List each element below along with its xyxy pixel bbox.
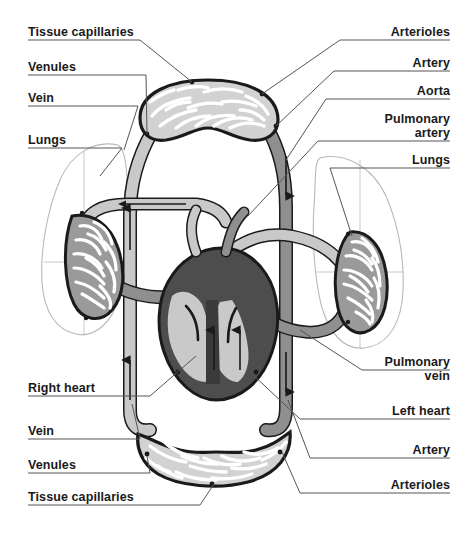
label-left-heart: Left heart xyxy=(392,404,450,418)
capillary-bed-bottom xyxy=(138,432,291,486)
label-pulmonary-vein: Pulmonary vein xyxy=(385,355,451,383)
label-vein-bottom: Vein xyxy=(28,424,54,438)
label-tissue-capillaries-bottom: Tissue capillaries xyxy=(28,490,134,504)
label-venules-top: Venules xyxy=(28,60,76,74)
label-artery-bottom: Artery xyxy=(413,443,450,457)
label-lungs-left: Lungs xyxy=(28,133,66,147)
label-tissue-capillaries-top: Tissue capillaries xyxy=(28,25,134,39)
label-lungs-right: Lungs xyxy=(412,153,450,167)
label-right-heart: Right heart xyxy=(28,381,95,395)
label-arterioles-bottom: Arterioles xyxy=(391,478,450,492)
label-arterioles-top: Arterioles xyxy=(391,25,450,39)
label-artery-top: Artery xyxy=(413,56,450,70)
capillary-bed-lung-right xyxy=(335,232,387,333)
capillary-bed-lung-left xyxy=(65,211,122,320)
label-vein-top: Vein xyxy=(28,91,54,105)
circulatory-system-figure: Tissue capillaries Venules Vein Lungs Ri… xyxy=(0,0,475,533)
label-venules-bottom: Venules xyxy=(28,458,76,472)
label-aorta: Aorta xyxy=(417,84,450,98)
circulatory-diagram xyxy=(0,0,475,533)
capillary-bed-top xyxy=(140,80,278,141)
label-pulmonary-artery: Pulmonary artery xyxy=(385,112,451,140)
systemic-venous-vessels xyxy=(130,132,152,430)
